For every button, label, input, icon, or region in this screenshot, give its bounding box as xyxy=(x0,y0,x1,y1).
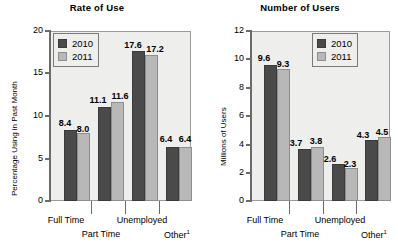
legend-item-2011[interactable]: 2011 xyxy=(317,50,352,63)
legend-swatch-2010-icon xyxy=(317,39,326,48)
bar-full-time-2011 xyxy=(277,69,290,201)
y-tick-label: 20 xyxy=(18,25,43,35)
x-label-other-text: Other xyxy=(361,230,384,240)
bar-other-2010 xyxy=(166,147,179,201)
bar-value-other-2011: 6.4 xyxy=(172,134,198,144)
bar-unemployed-2010 xyxy=(132,51,145,201)
chart-title-rate-of-use: Rate of Use xyxy=(2,2,192,13)
legend-rate-of-use: 2010 2011 xyxy=(53,33,99,67)
bar-value-part-time-2011: 11.6 xyxy=(105,91,135,101)
legend-label-2010: 2010 xyxy=(72,38,93,49)
y-axis-label-rate-of-use: Percentage Using in Past Month xyxy=(10,81,19,196)
y-tick-mark xyxy=(45,30,49,32)
y-tick-label: 12 xyxy=(220,25,244,35)
bar-unemployed-2010 xyxy=(332,164,345,201)
bar-part-time-2010 xyxy=(298,149,311,201)
y-tick-mark xyxy=(246,144,250,146)
x-label-other-superscript: 1 xyxy=(384,229,387,235)
chart-panel-rate-of-use: Rate of Use Percentage Using in Past Mon… xyxy=(0,0,199,245)
bar-value-unemployed-2011: 17.2 xyxy=(140,44,170,54)
bar-value-full-time-2011: 8.0 xyxy=(70,124,96,134)
x-tick-separator xyxy=(125,201,126,214)
y-tick-label: 6 xyxy=(220,110,244,120)
legend-item-2010[interactable]: 2010 xyxy=(317,37,352,50)
x-label-unemployed: Unemployed xyxy=(307,215,373,225)
x-label-other: Other1 xyxy=(349,229,398,240)
y-tick-mark xyxy=(246,30,250,32)
y-tick-mark xyxy=(246,115,250,117)
legend-item-2010[interactable]: 2010 xyxy=(58,37,93,50)
x-label-part-time: Part Time xyxy=(76,229,126,239)
y-tick-label: 4 xyxy=(220,139,244,149)
y-tick-mark xyxy=(246,172,250,174)
bar-other-2010 xyxy=(365,140,378,201)
x-tick-separator xyxy=(91,201,92,214)
bar-full-time-2010 xyxy=(64,130,77,201)
legend-item-2011[interactable]: 2011 xyxy=(58,50,93,63)
y-tick-mark xyxy=(45,158,49,160)
chart-title-number-of-users: Number of Users xyxy=(205,2,395,13)
bar-unemployed-2011 xyxy=(345,168,358,201)
x-label-other-text: Other xyxy=(164,230,187,240)
bar-part-time-2010 xyxy=(98,107,111,201)
bar-value-unemployed-2011: 2.3 xyxy=(337,159,363,169)
y-tick-label: 10 xyxy=(220,53,244,63)
legend-label-2010: 2010 xyxy=(331,38,352,49)
bar-value-full-time-2011: 9.3 xyxy=(270,59,296,69)
y-tick-mark xyxy=(246,58,250,60)
bar-full-time-2011 xyxy=(77,133,90,201)
bar-other-2011 xyxy=(179,147,192,201)
legend-swatch-2010-icon xyxy=(58,39,67,48)
y-tick-mark xyxy=(45,72,49,74)
y-tick-label: 10 xyxy=(18,110,43,120)
x-label-full-time: Full Time xyxy=(240,215,290,225)
legend-swatch-2011-icon xyxy=(58,52,67,61)
y-tick-label: 15 xyxy=(18,67,43,77)
legend-label-2011: 2011 xyxy=(331,51,351,62)
legend-label-2011: 2011 xyxy=(72,51,92,62)
bar-value-part-time-2011: 3.8 xyxy=(303,136,329,146)
x-tick-separator xyxy=(289,201,290,214)
x-tick-separator xyxy=(323,201,324,214)
bar-full-time-2010 xyxy=(264,65,277,201)
bar-value-other-2011: 4.5 xyxy=(369,127,395,137)
x-label-other-superscript: 1 xyxy=(187,229,190,235)
x-label-unemployed: Unemployed xyxy=(109,215,175,225)
y-tick-label: 8 xyxy=(220,82,244,92)
y-tick-label: 5 xyxy=(18,153,43,163)
y-tick-mark xyxy=(246,87,250,89)
y-tick-mark xyxy=(45,115,49,117)
x-axis-ticks-rate-of-use xyxy=(0,201,199,215)
x-tick-separator xyxy=(159,201,160,214)
bar-part-time-2011 xyxy=(111,102,124,201)
x-label-full-time: Full Time xyxy=(41,215,91,225)
x-tick-separator xyxy=(356,201,357,214)
legend-swatch-2011-icon xyxy=(317,52,326,61)
bar-unemployed-2011 xyxy=(145,55,158,201)
x-label-part-time: Part Time xyxy=(275,229,325,239)
x-axis-ticks-number-of-users xyxy=(199,201,398,215)
legend-number-of-users: 2010 2011 xyxy=(312,33,358,67)
y-tick-label: 2 xyxy=(220,167,244,177)
x-label-other: Other1 xyxy=(152,229,202,240)
chart-page: Rate of Use Percentage Using in Past Mon… xyxy=(0,0,398,245)
bar-other-2011 xyxy=(378,137,391,201)
